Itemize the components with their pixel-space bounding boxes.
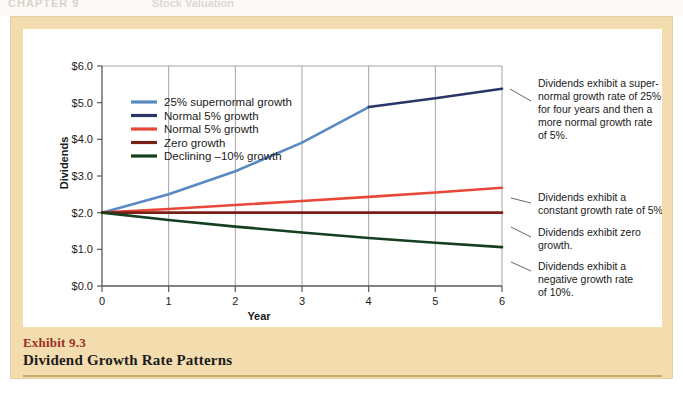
leader-line-supernormal-note <box>510 89 531 101</box>
x-axis-ticks: 0123456 <box>99 286 505 307</box>
legend-label-3: Zero growth <box>164 137 225 149</box>
annotation-line: growth. <box>538 239 572 251</box>
annotation-constant-note: Dividends exhibit aconstant growth rate … <box>538 191 662 216</box>
legend-label-2: Normal 5% growth <box>164 123 259 135</box>
x-tick-label-3: 3 <box>299 295 305 307</box>
exhibit-frame: $0.0$1.0$2.0$3.0$4.0$5.0$6.0 0123456 25%… <box>10 16 673 379</box>
y-tick-label-3: $3.0 <box>72 170 93 182</box>
legend-label-0: 25% supernormal growth <box>164 96 292 108</box>
x-tick-label-5: 5 <box>432 295 438 307</box>
annotation-line: of 10%. <box>538 286 574 298</box>
y-tick-label-2: $2.0 <box>72 207 93 219</box>
y-tick-label-5: $5.0 <box>72 97 93 109</box>
annotation-line: Dividends exhibit zero <box>538 226 641 238</box>
annotation-supernormal-note: Dividends exhibit a super-normal growth … <box>538 77 661 141</box>
y-tick-label-0: $0.0 <box>72 280 93 292</box>
chart-svg: $0.0$1.0$2.0$3.0$4.0$5.0$6.0 0123456 25%… <box>23 29 662 327</box>
annotation-zero-note: Dividends exhibit zerogrowth. <box>538 226 641 251</box>
caption-divider <box>23 375 662 377</box>
annotation-line: more normal growth rate <box>538 116 653 128</box>
y-tick-label-6: $6.0 <box>72 60 93 72</box>
chart-annotations: Dividends exhibit a super-normal growth … <box>510 77 662 298</box>
legend-label-1: Normal 5% growth <box>164 110 259 122</box>
chart-panel: $0.0$1.0$2.0$3.0$4.0$5.0$6.0 0123456 25%… <box>23 29 662 327</box>
page-header-strip: CHAPTER 9 Stock Valuation <box>0 0 683 16</box>
page-header-chapter: CHAPTER 9 <box>8 0 79 9</box>
annotation-negative-note: Dividends exhibit anegative growth rateo… <box>538 260 633 298</box>
chart-legend: 25% supernormal growthNormal 5% growthNo… <box>131 96 292 162</box>
x-axis-label: Year <box>199 310 319 322</box>
y-tick-label-1: $1.0 <box>72 243 93 255</box>
leader-line-negative-note <box>511 262 531 271</box>
annotation-line: normal growth rate of 25% <box>538 90 661 102</box>
annotation-line: Dividends exhibit a <box>538 191 626 203</box>
annotation-line: for four years and then a <box>538 103 653 115</box>
leader-line-zero-note <box>511 227 531 237</box>
annotation-line: negative growth rate <box>538 273 633 285</box>
legend-label-4: Declining –10% growth <box>164 150 282 162</box>
annotation-line: Dividends exhibit a super- <box>538 77 659 89</box>
exhibit-caption: Exhibit 9.3 Dividend Growth Rate Pattern… <box>23 335 662 377</box>
exhibit-label: Exhibit 9.3 <box>23 335 662 351</box>
annotation-line: constant growth rate of 5%. <box>538 204 662 216</box>
x-tick-label-0: 0 <box>99 295 105 307</box>
x-tick-label-1: 1 <box>166 295 172 307</box>
x-tick-label-2: 2 <box>232 295 238 307</box>
leader-line-constant-note <box>511 198 531 203</box>
annotation-line: Dividends exhibit a <box>538 260 626 272</box>
y-axis-label: Dividends <box>58 118 70 208</box>
dividend-growth-chart: $0.0$1.0$2.0$3.0$4.0$5.0$6.0 0123456 25%… <box>23 29 662 327</box>
page-header-section: Stock Valuation <box>152 0 234 9</box>
x-tick-label-4: 4 <box>366 295 372 307</box>
y-tick-label-4: $4.0 <box>72 133 93 145</box>
x-tick-label-6: 6 <box>499 295 505 307</box>
gridlines <box>102 66 502 286</box>
exhibit-title: Dividend Growth Rate Patterns <box>23 352 662 369</box>
annotation-line: of 5%. <box>538 129 568 141</box>
y-axis-ticks: $0.0$1.0$2.0$3.0$4.0$5.0$6.0 <box>72 60 102 292</box>
